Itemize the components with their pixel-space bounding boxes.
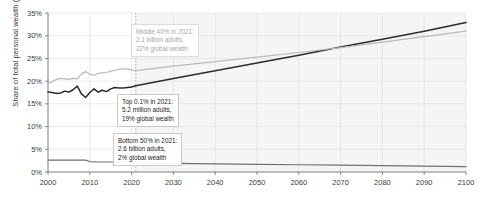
annotation-top-01: Top 0.1% in 2021:5.2 million adults,19% …	[117, 94, 179, 127]
x-axis-tick-label: 2000	[28, 178, 68, 187]
y-axis-tick-label: 35%	[12, 9, 42, 18]
annotation-line: 2% global wealth	[118, 154, 177, 163]
y-axis-tick-label: 20%	[12, 77, 42, 86]
annotation-middle-40: Middle 40% in 2021:2.1 billion adults,22…	[131, 24, 199, 57]
x-axis-tick-label: 2090	[404, 178, 444, 187]
annotation-line: 2.6 billion adults,	[118, 145, 177, 154]
y-axis-tick-label: 5%	[12, 145, 42, 154]
y-axis-tick-label: 25%	[12, 54, 42, 63]
x-axis-tick-label: 2020	[112, 178, 152, 187]
y-axis-tick-label: 30%	[12, 31, 42, 40]
x-axis-tick-label: 2030	[153, 178, 193, 187]
annotation-line: Middle 40% in 2021:	[136, 28, 194, 37]
y-axis-tick-label: 0%	[12, 168, 42, 177]
annotation-line: 5.2 million adults,	[122, 106, 174, 115]
annotation-line: 22% global wealth	[136, 45, 194, 54]
x-axis-tick-label: 2070	[321, 178, 361, 187]
y-axis-tick-label: 15%	[12, 99, 42, 108]
annotation-line: 19% global wealth	[122, 115, 174, 124]
annotation-bottom-50: Bottom 50% in 2021:2.6 billion adults,2%…	[113, 133, 182, 166]
annotation-line: 2.1 billion adults,	[136, 36, 194, 45]
annotation-line: Bottom 50% in 2021:	[118, 137, 177, 146]
annotation-line: Top 0.1% in 2021:	[122, 98, 174, 107]
x-axis-tick-label: 2050	[237, 178, 277, 187]
x-axis-tick-label: 2040	[195, 178, 235, 187]
x-axis-tick-label: 2010	[70, 178, 110, 187]
x-axis-tick-label: 2100	[446, 178, 479, 187]
x-axis-tick-label: 2080	[362, 178, 402, 187]
x-axis-tick-label: 2060	[279, 178, 319, 187]
y-axis-tick-label: 10%	[12, 122, 42, 131]
